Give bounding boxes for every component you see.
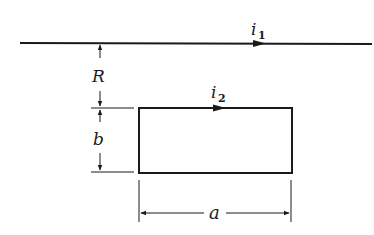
svg-text:i: i [251, 19, 256, 39]
rectangular-loop [139, 108, 292, 173]
b-label: b [93, 129, 104, 149]
diagram-canvas: i 1 i 2 R b a [0, 0, 374, 235]
wire-current-label: i 1 [251, 19, 266, 42]
straight-wire [20, 43, 372, 44]
svg-text:2: 2 [218, 92, 226, 105]
loop-current-label: i 2 [211, 82, 226, 105]
r-label: R [91, 66, 105, 86]
svg-text:1: 1 [258, 29, 266, 42]
a-label: a [209, 202, 220, 223]
loop-current-arrow [213, 105, 226, 112]
svg-text:i: i [211, 82, 216, 102]
